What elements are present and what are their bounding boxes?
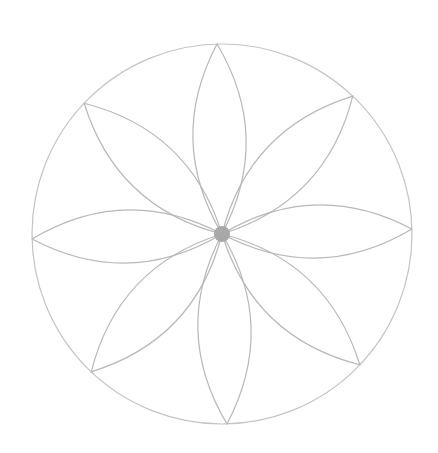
petal: [222, 205, 412, 258]
flower-diagram: [0, 0, 438, 453]
petal: [91, 234, 222, 372]
petal: [198, 234, 251, 424]
center-dot: [214, 226, 230, 242]
petal: [193, 44, 246, 234]
petal: [32, 210, 222, 263]
petal: [84, 103, 222, 234]
petal: [222, 96, 353, 234]
petal: [222, 234, 360, 365]
